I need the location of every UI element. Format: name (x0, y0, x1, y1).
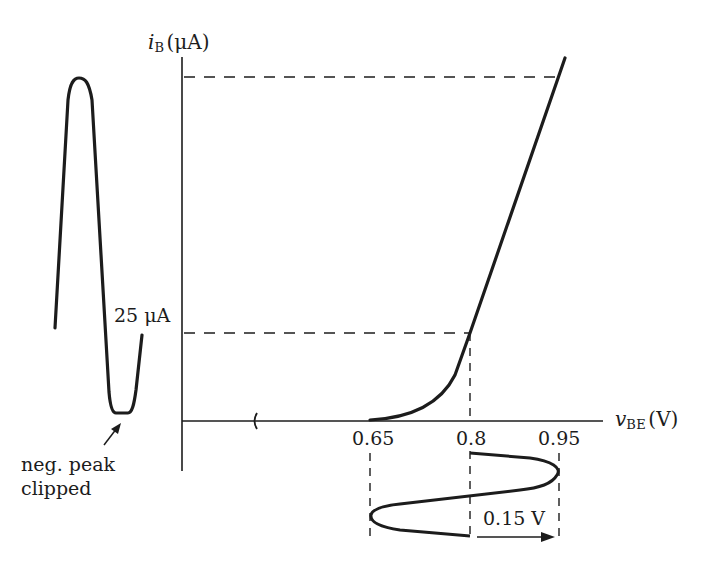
bjt-input-characteristic-diagram: iB(μA) vBE(V) 0.65 0.8 0.95 25 μA neg. p… (0, 0, 710, 564)
swing-label: 0.15 V (483, 509, 545, 528)
clip-note-line1: neg. peak (21, 455, 115, 474)
ib-output-waveform (55, 78, 142, 413)
y-axis-unit: (μA) (166, 30, 209, 54)
x-tick-0.65: 0.65 (352, 429, 394, 448)
y-axis-sub: B (154, 40, 164, 55)
x-axis-label: vBE(V) (615, 409, 678, 429)
diagram-canvas (0, 0, 710, 564)
swing-arrow-head-icon (541, 532, 555, 542)
base-current-label: 25 μA (114, 306, 170, 325)
ib-vbe-characteristic-curve (370, 58, 565, 420)
x-axis-unit: (V) (648, 407, 678, 431)
clip-note-line2: clipped (21, 479, 92, 498)
x-axis-sub: BE (626, 417, 646, 432)
x-axis-var: v (615, 407, 626, 431)
y-axis-label: iB(μA) (148, 32, 210, 52)
clip-pointer-head-icon (111, 423, 121, 434)
x-tick-0.95: 0.95 (538, 429, 580, 448)
x-tick-0.8: 0.8 (456, 429, 486, 448)
